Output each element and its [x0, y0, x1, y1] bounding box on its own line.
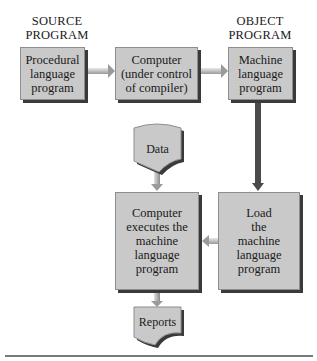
bottom-divider	[5, 355, 313, 357]
arrow-data-to-executes	[151, 172, 163, 191]
box-line: language	[126, 248, 187, 262]
box-line: Load	[236, 206, 281, 220]
compiler-box: Computer (under control of compiler)	[115, 47, 198, 100]
machine-language-program-box: Machine language program	[228, 47, 293, 100]
box-line: the	[236, 220, 281, 234]
execute-program-box: Computer executes the machine language p…	[115, 192, 199, 290]
procedural-program-box: Procedural language program	[20, 47, 85, 100]
box-line: program	[236, 262, 281, 276]
box-line: Computer	[126, 206, 187, 220]
data-document-label: Data	[134, 142, 181, 157]
box-line: language	[236, 248, 281, 262]
box-line: program	[238, 81, 283, 95]
box-line: language	[25, 67, 79, 81]
box-line: language	[238, 67, 283, 81]
load-program-box: Load the machine language program	[218, 192, 300, 290]
box-line: program	[126, 262, 187, 276]
box-line: of compiler)	[121, 81, 192, 95]
box-line: machine	[236, 234, 281, 248]
box-line: (under control	[121, 67, 192, 81]
box-line: Machine	[238, 53, 283, 67]
box-line: Procedural	[25, 53, 79, 67]
arrow-machine-to-load	[252, 103, 264, 191]
box-line: program	[25, 81, 79, 95]
arrow-executes-to-reports	[151, 293, 163, 307]
arrow-load-to-executes	[202, 235, 218, 247]
arrow-procedural-to-compiler	[88, 64, 115, 78]
reports-document-label: Reports	[134, 315, 181, 330]
box-line: Computer	[121, 53, 192, 67]
box-line: executes the	[126, 220, 187, 234]
box-line: machine	[126, 234, 187, 248]
arrow-compiler-to-machine	[201, 64, 228, 78]
